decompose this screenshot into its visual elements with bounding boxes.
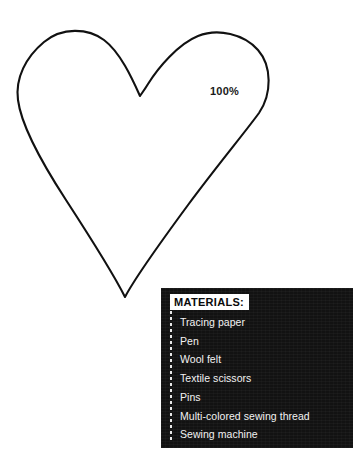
list-item: Wool felt (180, 350, 350, 369)
list-item: Pen (180, 332, 350, 351)
list-item: Sewing machine (180, 425, 350, 444)
materials-panel: MATERIALS: Tracing paper Pen Wool felt T… (161, 288, 353, 448)
pattern-template-page: 100% MATERIALS: Tracing paper Pen Wool f… (0, 0, 363, 473)
list-item: Pins (180, 388, 350, 407)
list-item: Textile scissors (180, 369, 350, 388)
materials-list: Tracing paper Pen Wool felt Textile scis… (180, 313, 350, 444)
dotted-divider-line (170, 311, 172, 442)
scale-label: 100% (210, 86, 239, 97)
list-item: Tracing paper (180, 313, 350, 332)
list-item: Multi-colored sewing thread (180, 407, 350, 426)
materials-heading: MATERIALS: (170, 294, 249, 310)
